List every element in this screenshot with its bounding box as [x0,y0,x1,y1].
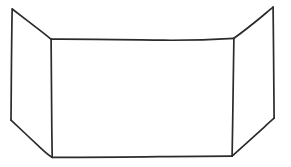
sketch-canvas: Trifold Panel Perspective Sketch Hand-dr… [0,0,291,167]
left-fold-edge-line [51,39,52,157]
trifold-panel-drawing: Trifold Panel Perspective Sketch Hand-dr… [0,0,291,167]
center-panel-face [51,38,234,157]
right-outer-edge-line [273,7,274,118]
